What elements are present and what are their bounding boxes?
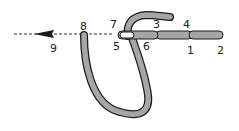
stitch-knot [120, 32, 134, 38]
label-2: 2 [217, 44, 224, 57]
label-8: 8 [80, 20, 87, 33]
label-5: 5 [113, 40, 120, 53]
label-6: 6 [143, 40, 150, 53]
needle-arrow-icon [34, 30, 54, 38]
label-1: 1 [187, 44, 194, 57]
label-3: 3 [153, 18, 160, 31]
label-4: 4 [183, 18, 190, 31]
diagram-canvas: 1 2 3 4 5 6 7 8 9 [0, 0, 239, 131]
stitch-diagram: 1 2 3 4 5 6 7 8 9 [0, 0, 239, 131]
label-9: 9 [50, 42, 57, 55]
stitch-3-4 [156, 31, 192, 39]
stitch-1-2 [189, 31, 223, 39]
label-7: 7 [110, 18, 117, 31]
